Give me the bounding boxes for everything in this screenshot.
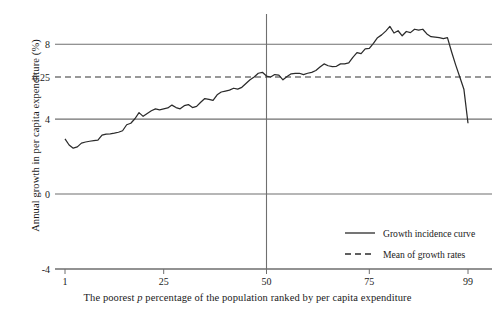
y-axis-ticks: 86.2540-4: [33, 39, 51, 275]
x-tick-label-25: 25: [159, 276, 169, 287]
x-axis-label-before: The poorest: [84, 292, 138, 303]
x-tick-label-1: 1: [63, 276, 68, 287]
chart-legend: Growth incidence curveMean of growth rat…: [345, 228, 475, 260]
y-tick-label-0: 0: [45, 189, 50, 200]
legend-label-1: Mean of growth rates: [383, 249, 466, 260]
chart-plot-area: 125507599 86.2540-4 Growth incidence cur…: [0, 0, 495, 316]
x-axis-label: The poorest p percentage of the populati…: [0, 292, 495, 303]
y-tick-label-6.25: 6.25: [33, 72, 51, 83]
x-axis-label-after: percentage of the population ranked by p…: [143, 292, 412, 303]
y-tick-label-8: 8: [45, 39, 50, 50]
x-tick-label-50: 50: [262, 276, 272, 287]
x-tick-label-99: 99: [463, 276, 473, 287]
y-tick-label-4: 4: [45, 114, 50, 125]
growth-incidence-chart: Annual growth in per capita expenditure …: [0, 0, 495, 316]
x-axis-ticks: 125507599: [55, 269, 492, 287]
legend-label-0: Growth incidence curve: [383, 228, 475, 239]
x-tick-label-75: 75: [364, 276, 374, 287]
y-tick-label--4: -4: [42, 264, 50, 275]
